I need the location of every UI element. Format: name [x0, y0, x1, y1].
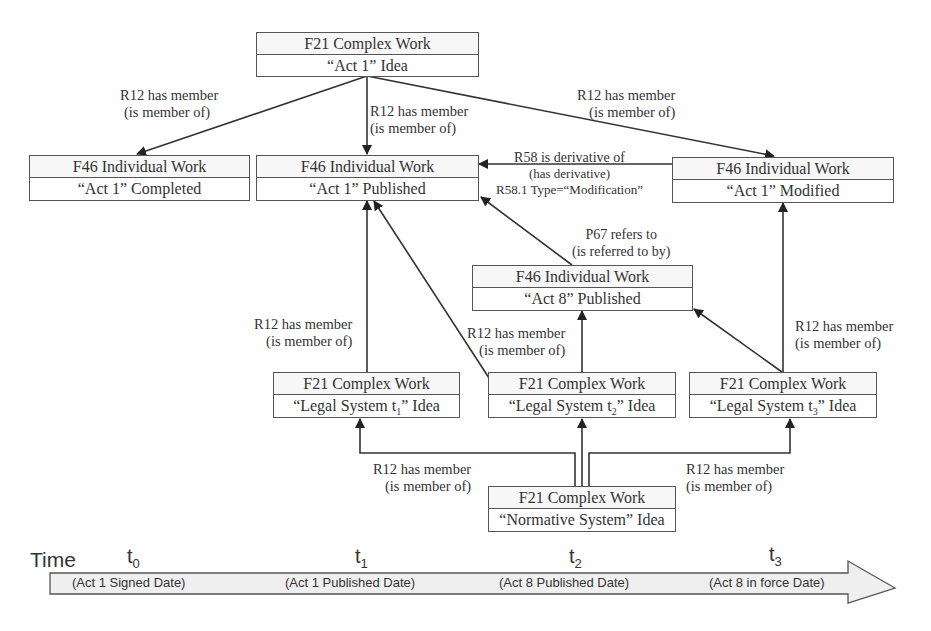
edge-label-r12-right: R12 has member (is member of) [577, 87, 675, 121]
node-label: “Act 1” Modified [673, 180, 893, 202]
node-label: “Normative System” Idea [489, 509, 675, 531]
node-class: F21 Complex Work [489, 487, 675, 509]
node-class: F46 Individual Work [257, 156, 478, 178]
edge-label-r12-t1: R12 has member (is member of) [254, 316, 352, 350]
edge-label-r12-t3: R12 has member (is member of) [795, 318, 893, 352]
node-class: F21 Complex Work [257, 33, 478, 55]
edge-label-p67: P67 refers to (is referred to by) [572, 226, 670, 260]
node-act1-modified: F46 Individual Work “Act 1” Modified [672, 157, 894, 203]
node-act8-published: F46 Individual Work “Act 8” Published [472, 265, 693, 311]
node-label: “Legal System t2” Idea [489, 395, 675, 417]
node-act1-completed: F46 Individual Work “Act 1” Completed [29, 155, 250, 201]
node-class: F21 Complex Work [274, 373, 459, 395]
timeline-label-t0: (Act 1 Signed Date) [72, 575, 185, 590]
timeline-label-t1: (Act 1 Published Date) [285, 575, 415, 590]
node-class: F46 Individual Work [473, 266, 692, 288]
node-legal-system-t1: F21 Complex Work “Legal System t1” Idea [273, 372, 460, 418]
edge-label-r12-t2: R12 has member (is member of) [467, 325, 565, 359]
edge-label-r12-normative-left: R12 has member (is member of) [365, 461, 471, 495]
timeline-tick-t0: t0 [127, 545, 140, 571]
node-label: “Act 1” Published [257, 178, 478, 200]
node-label: “Act 1” Idea [257, 55, 478, 77]
node-class: F21 Complex Work [489, 373, 675, 395]
node-class: F46 Individual Work [30, 156, 249, 178]
edge-label-r12-left: R12 has member (is member of) [120, 87, 218, 121]
node-label: “Act 8” Published [473, 288, 692, 310]
node-label: “Legal System t3” Idea [690, 395, 876, 417]
node-legal-system-t3: F21 Complex Work “Legal System t3” Idea [689, 372, 877, 418]
timeline-tick-t1: t1 [355, 545, 368, 571]
node-class: F46 Individual Work [673, 158, 893, 180]
node-class: F21 Complex Work [690, 373, 876, 395]
timeline-tick-t3: t3 [769, 543, 782, 569]
node-act1-published: F46 Individual Work “Act 1” Published [256, 155, 479, 201]
timeline-label-t3: (Act 8 in force Date) [709, 575, 825, 590]
node-normative-system: F21 Complex Work “Normative System” Idea [488, 486, 676, 532]
timeline-label-t2: (Act 8 Published Date) [499, 575, 629, 590]
node-label: “Legal System t1” Idea [274, 395, 459, 417]
edge-label-r12-normative-right: R12 has member (is member of) [686, 461, 784, 495]
node-label: “Act 1” Completed [30, 178, 249, 200]
node-legal-system-t2: F21 Complex Work “Legal System t2” Idea [488, 372, 676, 418]
edge-label-r58: R58 is derivative of (has derivative) R5… [496, 150, 643, 198]
edge-label-r12-center: R12 has member (is member of) [370, 103, 468, 137]
timeline-title: Time [30, 548, 76, 572]
node-act1-idea: F21 Complex Work “Act 1” Idea [256, 32, 479, 77]
timeline-tick-t2: t2 [569, 545, 582, 571]
